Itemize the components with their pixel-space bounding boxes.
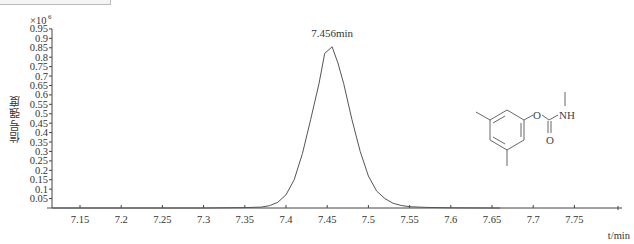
y-tick-label: 0.95 — [30, 23, 48, 34]
x-tick-label: 7.25 — [153, 214, 171, 225]
y-tick-label: 0.35 — [30, 137, 48, 148]
chromatogram-trace — [47, 47, 500, 208]
y-tick-label: 0.8 — [35, 52, 48, 63]
x-axis-title: t/min — [608, 230, 631, 241]
benzene-ring — [490, 110, 524, 150]
y-axis-ticks: 0.050.10.150.20.250.30.350.40.450.50.550… — [30, 23, 52, 204]
y-tick-label: 0.25 — [30, 155, 48, 166]
x-tick-label: 7.65 — [483, 214, 501, 225]
y-tick-label: 0.5 — [35, 108, 48, 119]
y-tick-label: 0.05 — [30, 193, 48, 204]
methyl-bond-top — [476, 112, 490, 120]
x-tick-label: 7.35 — [236, 214, 254, 225]
nh-label: NH — [559, 109, 575, 121]
x-tick-label: 7.7 — [527, 214, 540, 225]
x-tick-label: 7.2 — [115, 214, 128, 225]
molecule-structure-inset — [476, 92, 565, 166]
chromatogram-chart: ×10 6 0.050.10.150.20.250.30.350.40.450.… — [0, 0, 634, 244]
x-tick-label: 7.55 — [400, 214, 418, 225]
y-tick-label: 0.7 — [35, 71, 48, 82]
peak-label: 7.456min — [311, 27, 353, 39]
svg-text:6: 6 — [48, 13, 52, 21]
y-tick-label: 0.45 — [30, 118, 48, 129]
x-tick-label: 7.5 — [362, 214, 375, 225]
ester-oxygen-label: O — [533, 109, 541, 121]
y-tick-label: 0.55 — [30, 99, 48, 110]
y-tick-label: 0.65 — [30, 80, 48, 91]
x-tick-label: 7.4 — [279, 214, 293, 225]
y-tick-label: 0.4 — [35, 127, 49, 138]
x-tick-label: 7.45 — [318, 214, 336, 225]
y-tick-label: 0.75 — [30, 61, 48, 72]
y-tick-label: 0.15 — [30, 174, 48, 185]
y-tick-label: 0.9 — [35, 33, 48, 44]
x-tick-label: 7.75 — [565, 214, 583, 225]
y-tick-label: 0.2 — [35, 165, 48, 176]
y-tick-label: 0.3 — [35, 146, 48, 157]
y-tick-label: 0.85 — [30, 42, 48, 53]
carbonyl-oxygen-label: O — [546, 134, 554, 146]
x-tick-label: 7.3 — [197, 214, 210, 225]
x-tick-label: 7.15 — [71, 214, 89, 225]
y-tick-label: 0.6 — [35, 89, 48, 100]
y-tick-label: 0.1 — [35, 184, 48, 195]
x-tick-label: 7.6 — [444, 214, 457, 225]
